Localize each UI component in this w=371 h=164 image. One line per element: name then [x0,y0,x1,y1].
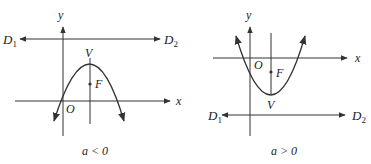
focus-point [88,82,91,85]
directrix-label-d1: D1 [207,108,222,125]
y-axis-label: y [245,8,252,22]
y-axis-label: y [57,8,64,22]
vertex-label: V [267,98,276,112]
x-axis-label: x [354,51,361,65]
origin-label: O [254,58,263,72]
directrix-label-d1: D1 [2,32,17,49]
directrix-label-d2: D2 [351,108,366,125]
directrix-label-d2: D2 [163,32,178,49]
parabola-diagrams: D1 D2 y x F V O a < 0 y x [0,0,371,164]
origin-label: O [66,102,75,116]
vertex-label: V [85,46,94,60]
focus-point [269,70,272,73]
figure-a-negative: D1 D2 y x F V O a < 0 [2,8,182,158]
parabola-curve [54,64,124,121]
figure-caption: a > 0 [271,144,297,158]
focus-label: F [275,66,284,80]
figure-a-positive: y x F V O D1 D2 a > 0 [207,8,366,158]
focus-label: F [94,77,103,91]
x-axis-label: x [175,94,182,108]
figure-caption: a < 0 [82,144,108,158]
